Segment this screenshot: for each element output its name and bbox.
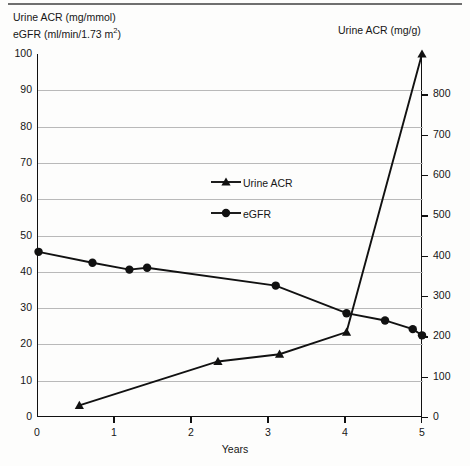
- right-tick-mark: [422, 336, 428, 337]
- left-tick-label: 70: [2, 156, 32, 168]
- left-axis-title-line2: eGFR (ml/min/1.73 m2): [13, 24, 121, 41]
- plot-area: [37, 54, 422, 417]
- x-tick-label: 3: [256, 426, 280, 438]
- gridline: [38, 163, 423, 164]
- right-tick-mark: [422, 377, 428, 378]
- x-tick-mark: [190, 417, 191, 423]
- left-tick-label: 100: [2, 47, 32, 59]
- left-axis-title: Urine ACR (mg/mmol) eGFR (ml/min/1.73 m2…: [13, 11, 121, 41]
- left-tick-label: 80: [2, 120, 32, 132]
- gridline: [38, 127, 423, 128]
- x-tick-mark: [421, 417, 422, 423]
- right-tick-label: 500: [433, 208, 451, 220]
- gridline: [38, 199, 423, 200]
- gridline: [38, 272, 423, 273]
- right-tick-label: 800: [433, 87, 451, 99]
- right-tick-label: 200: [433, 329, 451, 341]
- legend-label-urine-acr: Urine ACR: [243, 177, 293, 189]
- left-axis-title-line2-pre: eGFR (ml/min/1.73 m: [13, 28, 113, 40]
- x-tick-label: 4: [333, 426, 357, 438]
- right-tick-mark: [422, 417, 428, 418]
- x-tick-label: 1: [102, 426, 126, 438]
- x-tick-mark: [344, 417, 345, 423]
- x-tick-label: 2: [179, 426, 203, 438]
- right-tick-mark: [422, 94, 428, 95]
- right-axis-title: Urine ACR (mg/g): [338, 24, 421, 37]
- right-tick-mark: [422, 175, 428, 176]
- left-tick-label: 0: [2, 410, 32, 422]
- right-tick-mark: [422, 215, 428, 216]
- x-tick-mark: [267, 417, 268, 423]
- gridline: [38, 381, 423, 382]
- right-tick-label: 0: [433, 410, 439, 422]
- left-axis-title-line2-post: ): [118, 28, 122, 40]
- x-tick-label: 0: [25, 426, 49, 438]
- gridline: [38, 308, 423, 309]
- left-tick-label: 50: [2, 229, 32, 241]
- chart-figure: Urine ACR (mg/mmol) eGFR (ml/min/1.73 m2…: [0, 0, 470, 466]
- left-tick-label: 60: [2, 192, 32, 204]
- x-axis-label: Years: [0, 443, 470, 455]
- top-rule-divider: [8, 3, 462, 5]
- left-axis-title-line1: Urine ACR (mg/mmol): [13, 11, 121, 24]
- gridline: [38, 90, 423, 91]
- right-tick-mark: [422, 256, 428, 257]
- left-tick-label: 20: [2, 337, 32, 349]
- left-tick-label: 90: [2, 83, 32, 95]
- right-tick-label: 300: [433, 289, 451, 301]
- left-tick-label: 40: [2, 265, 32, 277]
- legend-label-egfr: eGFR: [243, 208, 271, 220]
- right-tick-label: 400: [433, 249, 451, 261]
- right-tick-label: 600: [433, 168, 451, 180]
- gridline: [38, 344, 423, 345]
- right-tick-label: 100: [433, 370, 451, 382]
- right-tick-mark: [422, 296, 428, 297]
- left-tick-label: 10: [2, 374, 32, 386]
- gridline: [38, 236, 423, 237]
- x-tick-label: 5: [410, 426, 434, 438]
- right-tick-label: 700: [433, 128, 451, 140]
- left-tick-label: 30: [2, 301, 32, 313]
- right-tick-mark: [422, 135, 428, 136]
- x-tick-mark: [113, 417, 114, 423]
